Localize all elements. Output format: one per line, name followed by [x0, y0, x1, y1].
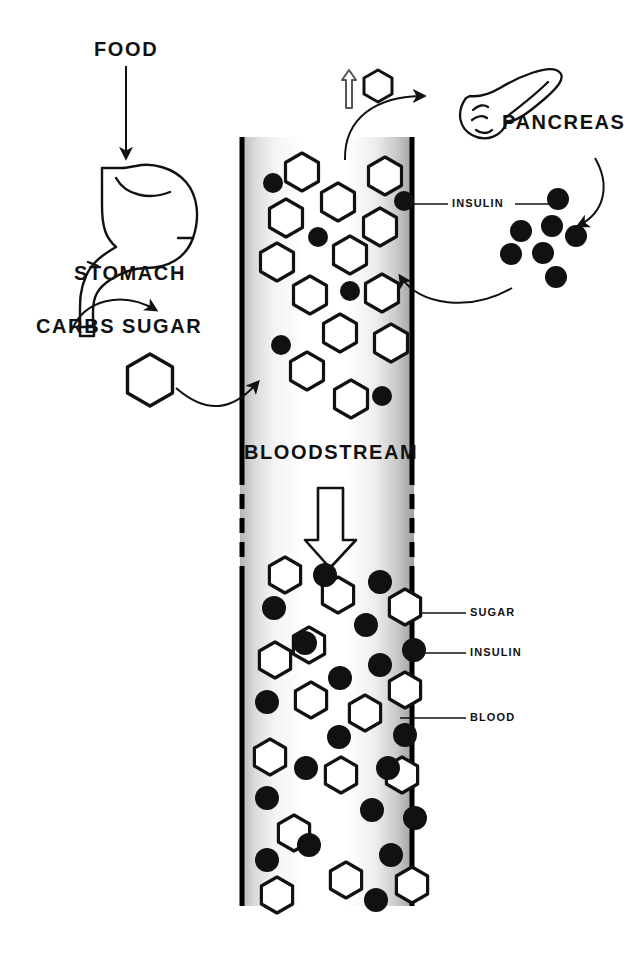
insulin-dot-icon — [368, 570, 392, 594]
insulin-dot-icon — [360, 798, 384, 822]
sugar-hexagon-icon — [375, 324, 408, 362]
sugar-hexagon-icon — [325, 757, 356, 793]
legend-label-blood: BLOOD — [470, 711, 515, 723]
sugar-hexagon-icon — [286, 153, 319, 191]
sugar-hexagon-icon — [389, 672, 420, 708]
insulin-dot-icon — [308, 227, 328, 247]
sugar-hexagon-icon — [324, 314, 357, 352]
insulin-dot-icon — [340, 281, 360, 301]
sugar-hexagon-free — [128, 354, 173, 406]
insulin-dot-icon — [297, 833, 321, 857]
sugar-hexagon-icon — [270, 199, 303, 237]
pancreas-to-insulin-arrow-icon — [578, 158, 604, 226]
label-bloodstream: BLOODSTREAM — [244, 441, 418, 464]
sugar-hexagon-icon — [294, 276, 327, 314]
insulin-dot-icon — [393, 723, 417, 747]
insulin-dot-icon — [293, 631, 317, 655]
diagram-canvas: FOOD STOMACH CARBS SUGAR PANCREAS BLOODS… — [0, 0, 642, 963]
insulin-dot-icon — [271, 335, 291, 355]
insulin-dot-icon — [255, 786, 279, 810]
insulin-dot-icon — [263, 173, 283, 193]
sugar-hexagon-icon — [330, 862, 361, 898]
insulin-dot-icon — [500, 243, 522, 265]
insulin-dot-icon — [262, 596, 286, 620]
insulin-dot-icon — [547, 188, 569, 210]
sugar-hexagon-icon — [334, 236, 367, 274]
label-stomach: STOMACH — [74, 262, 186, 285]
insulin-dot-icon — [294, 756, 318, 780]
diagram-graphics — [0, 0, 642, 963]
sugar-hexagon-icon — [261, 877, 292, 913]
insulin-dot-icon — [379, 843, 403, 867]
stomach-organ-icon — [80, 165, 197, 336]
label-pancreas: PANCREAS — [502, 111, 626, 134]
insulin-dot-icon — [327, 725, 351, 749]
insulin-dot-icon — [394, 191, 414, 211]
sugar-hexagon-icon — [322, 183, 355, 221]
label-carbs: CARBS — [36, 315, 115, 338]
sugar-hexagon-icon — [295, 682, 326, 718]
insulin-dot-icon — [255, 690, 279, 714]
insulin-dot-icon — [313, 563, 337, 587]
sugar-hexagon-icon — [389, 589, 420, 625]
insulin-dot-icon — [403, 806, 427, 830]
insulin-dot-icon — [376, 756, 400, 780]
legend-label-sugar: SUGAR — [470, 606, 515, 618]
insulin-dot-icon — [354, 613, 378, 637]
label-sugar-word: SUGAR — [122, 315, 202, 338]
sugar-hexagon-rising — [364, 70, 392, 102]
insulin-dot-icon — [328, 666, 352, 690]
sugar-hexagon-icon — [396, 867, 427, 903]
insulin-release-arrow-icon — [400, 276, 512, 303]
sugar-hexagon-icon — [335, 380, 368, 418]
label-food: FOOD — [94, 38, 158, 61]
insulin-dot-icon — [532, 242, 554, 264]
insulin-dot-icon — [510, 220, 532, 242]
insulin-dot-icon — [545, 266, 567, 288]
insulin-dot-icon — [372, 386, 392, 406]
insulin-dot-icon — [565, 225, 587, 247]
sugar-hexagon-icon — [369, 157, 402, 195]
sugar-hexagon-icon — [364, 208, 397, 246]
insulin-dot-icon — [402, 638, 426, 662]
sugar-hexagon-icon — [366, 274, 399, 312]
callout-insulin-top: INSULIN — [452, 197, 504, 209]
sugar-hexagon-icon — [291, 352, 324, 390]
insulin-dot-icon — [255, 848, 279, 872]
sugar-hexagon-icon — [349, 695, 380, 731]
legend-label-insulin: INSULIN — [470, 646, 522, 658]
sugar-hexagon-icon — [259, 642, 290, 678]
sugar-hexagon-icon — [254, 739, 285, 775]
sugar-rising-arrow-up-hollow-icon — [342, 70, 356, 108]
sugar-hexagon-icon — [269, 557, 300, 593]
insulin-dot-icon — [368, 653, 392, 677]
insulin-dot-icon — [541, 215, 563, 237]
sugar-hexagon-icon — [261, 243, 294, 281]
insulin-dot-icon — [364, 888, 388, 912]
